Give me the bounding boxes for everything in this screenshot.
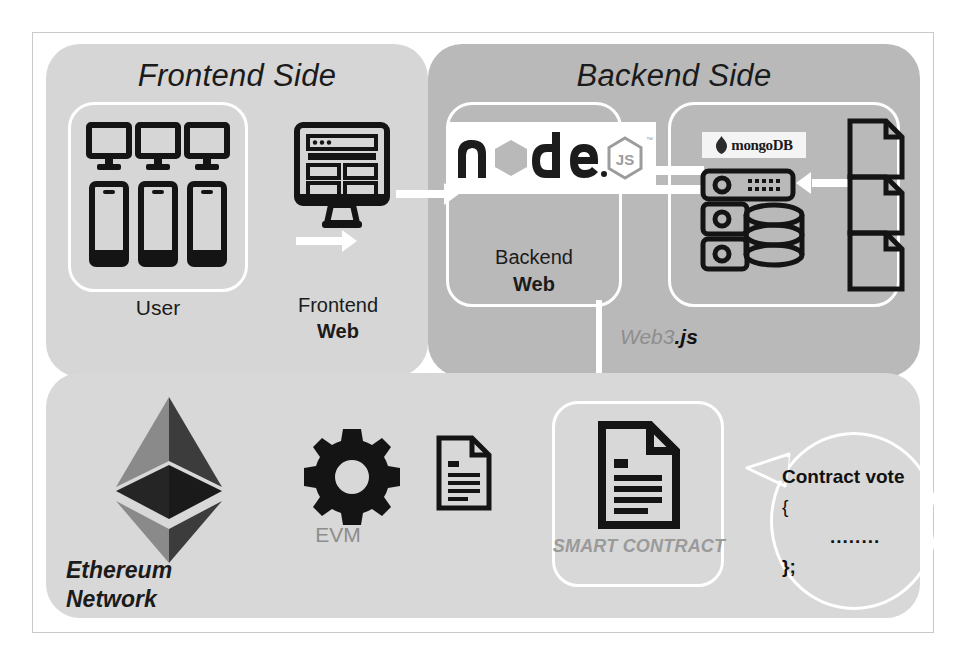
web3js-label-bold: .js: [674, 325, 697, 348]
ethereum-network-label: Ethereum Network: [66, 556, 276, 614]
arrow-frontend-to-backend: [396, 183, 462, 205]
bubble-line-1: Contract vote: [782, 462, 932, 492]
frontend-web-label: Frontend Web: [258, 292, 418, 344]
document-icon: [846, 230, 908, 292]
ethereum-label-top: Ethereum: [66, 557, 172, 583]
backend-side-title: Backend Side: [428, 58, 920, 94]
svg-text:JS: JS: [616, 151, 634, 168]
backend-web-label: Backend Web: [446, 244, 622, 298]
ethereum-logo: [104, 395, 234, 565]
smart-contract-label: SMART CONTRACT: [546, 536, 732, 557]
backend-web-label-top: Backend: [495, 246, 573, 268]
nodejs-logo: JS ™: [448, 122, 656, 194]
mongodb-label: mongoDB: [731, 137, 792, 154]
frontend-side-title: Frontend Side: [46, 58, 428, 94]
frontend-web-label-bottom: Web: [317, 320, 359, 342]
diagram-canvas: Frontend Side: [0, 0, 964, 667]
web3js-label: Web3.js: [620, 325, 698, 349]
ethereum-label-bottom: Network: [66, 586, 157, 612]
node-to-database-connector: [656, 166, 704, 194]
devices-icon: [86, 122, 234, 272]
contract-code-text: Contract vote { ........ };: [782, 462, 932, 582]
bubble-line-3: ........: [782, 522, 932, 552]
document-icon: [846, 174, 908, 236]
bubble-line-4: };: [782, 552, 932, 582]
evm-label: EVM: [278, 523, 398, 547]
document-lines-icon: [436, 435, 492, 511]
contract-document-icon: [598, 421, 680, 529]
backend-web-label-bottom: Web: [513, 273, 555, 295]
gear-icon: [304, 429, 400, 525]
desktop-website-icon: [294, 122, 390, 234]
user-label: User: [68, 296, 248, 320]
svg-text:™: ™: [646, 136, 653, 143]
frontend-web-label-top: Frontend: [298, 294, 378, 316]
mongodb-logo: mongoDB: [702, 132, 806, 158]
document-icon: [846, 118, 908, 180]
arrow-documents-to-database: [796, 172, 850, 194]
bubble-line-2: {: [782, 492, 932, 522]
web3js-label-normal: Web3: [620, 325, 674, 348]
frontend-side-panel: Frontend Side: [46, 44, 428, 377]
